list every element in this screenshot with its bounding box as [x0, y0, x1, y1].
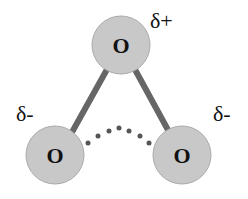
atom-right: O: [153, 126, 211, 184]
hydrogen-bond-dots: [86, 126, 152, 146]
svg-text:O: O: [112, 33, 129, 58]
charge-top: δ+: [150, 8, 173, 33]
bond-right: [132, 64, 168, 130]
charge-right: δ-: [213, 101, 231, 126]
ozone-diagram: O O O δ+ δ- δ-: [0, 0, 248, 199]
atom-left: O: [26, 126, 84, 184]
svg-text:O: O: [173, 143, 190, 168]
charge-left: δ-: [16, 101, 34, 126]
bond-left: [71, 64, 110, 134]
atom-top: O: [92, 16, 150, 74]
svg-text:O: O: [46, 143, 63, 168]
